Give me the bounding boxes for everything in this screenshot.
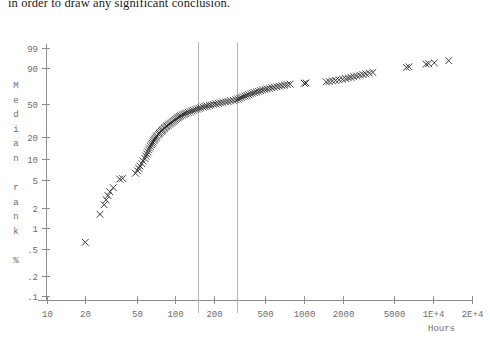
- y-axis-title: Medianrank%: [13, 81, 19, 266]
- y-tick-label-.2: .2: [27, 273, 38, 283]
- y-tick-label-5: 5: [33, 177, 38, 187]
- y-tick-label-99: 99: [27, 45, 38, 55]
- document-text-fragment: in order to draw any significant conclus…: [8, 0, 230, 11]
- y-axis-title-char-9: n: [13, 212, 18, 222]
- y-axis-title-char-7: r: [13, 183, 18, 193]
- x-tick-label-1E+4: 1E+4: [423, 310, 445, 320]
- y-axis-title-char-0: M: [13, 81, 18, 91]
- x-tick-label-1000: 1000: [294, 310, 316, 320]
- data-point-marker: [445, 57, 452, 64]
- x-tick-label-20: 20: [80, 310, 91, 320]
- data-point-marker: [110, 184, 117, 191]
- x-tick-label-10: 10: [42, 310, 53, 320]
- y-axis-title-char-5: n: [13, 154, 18, 164]
- data-point-markers-group: [82, 57, 452, 245]
- y-tick-label-10: 10: [27, 156, 38, 166]
- y-axis-title-char-10: k: [13, 227, 18, 237]
- weibull-probability-plot: 9990502010521.5.2.1 10205010020050010002…: [0, 18, 490, 347]
- y-axis-title-char-1: e: [13, 96, 18, 106]
- x-tick-label-2E+4: 2E+4: [462, 310, 484, 320]
- data-point-marker: [135, 165, 142, 172]
- data-point-marker: [431, 59, 438, 66]
- y-tick-label-2: 2: [33, 205, 38, 215]
- y-tick-label-50: 50: [27, 101, 38, 111]
- y-tick-label-.1: .1: [27, 293, 38, 303]
- x-tick-label-5000: 5000: [384, 310, 406, 320]
- x-tick-label-50: 50: [132, 310, 143, 320]
- reference-lines-group: [199, 42, 238, 313]
- data-point-marker: [82, 239, 89, 246]
- y-axis-title-char-2: d: [13, 110, 18, 120]
- y-axis-title-char-3: i: [13, 125, 18, 135]
- x-tick-label-200: 200: [206, 310, 222, 320]
- x-tick-label-2000: 2000: [333, 310, 355, 320]
- data-point-marker: [97, 211, 104, 218]
- y-tick-label-90: 90: [27, 65, 38, 75]
- y-axis-title-char-4: a: [13, 139, 19, 149]
- plot-canvas: 9990502010521.5.2.1 10205010020050010002…: [0, 18, 490, 347]
- y-tick-label-20: 20: [27, 134, 38, 144]
- x-tick-label-500: 500: [257, 310, 273, 320]
- y-axis-title-char-12: %: [13, 256, 19, 266]
- y-axis-title-char-8: a: [13, 198, 19, 208]
- x-axis-title: Hours: [428, 324, 455, 334]
- x-tick-label-100: 100: [167, 310, 183, 320]
- y-tick-label-1: 1: [33, 225, 38, 235]
- x-axis-ticks-group: 1020501002005001000200050001E+42E+4: [42, 296, 483, 320]
- y-tick-label-.5: .5: [27, 246, 38, 256]
